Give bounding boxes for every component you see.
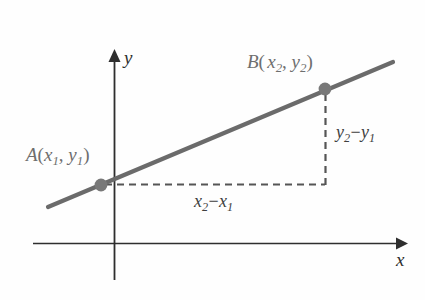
y-axis-arrowhead xyxy=(109,49,121,62)
y-axis-label: y xyxy=(124,48,132,67)
y-axis xyxy=(109,49,121,280)
point-b-comma: , xyxy=(282,51,292,72)
x-axis-label: x xyxy=(396,250,404,269)
point-a-name: A xyxy=(26,144,38,165)
point-b-name: B xyxy=(247,51,259,72)
point-b-x-var: x xyxy=(267,51,275,72)
run-var-2: x xyxy=(219,191,227,211)
x-axis-arrowhead xyxy=(396,238,408,250)
rise-var-2: y xyxy=(361,122,369,142)
run-subscript-2: 1 xyxy=(227,200,233,214)
point-b-paren-close: ) xyxy=(307,51,313,72)
point-a-paren-close: ) xyxy=(83,144,89,165)
point-b-y-var: y xyxy=(292,51,300,72)
point-b-label: B(x2, y2) xyxy=(247,52,313,75)
point-a-comma: , xyxy=(59,144,69,165)
point-a-marker xyxy=(95,179,108,192)
geometry-figure: A(x1, y1) B(x2, y2) y2−y1 x2−x1 y x xyxy=(0,0,425,300)
rise-subscript-2: 1 xyxy=(369,131,375,145)
run-operator: − xyxy=(208,191,219,211)
point-a-y-var: y xyxy=(68,144,76,165)
point-a-label: A(x1, y1) xyxy=(26,145,90,168)
x-axis xyxy=(33,238,408,250)
rise-operator: − xyxy=(350,122,361,142)
point-b-paren-open: ( xyxy=(259,51,268,72)
rise-var-1: y xyxy=(336,122,344,142)
run-label: x2−x1 xyxy=(194,192,233,213)
point-b-marker xyxy=(319,83,332,96)
run-var-1: x xyxy=(194,191,202,211)
rise-label: y2−y1 xyxy=(336,123,375,144)
